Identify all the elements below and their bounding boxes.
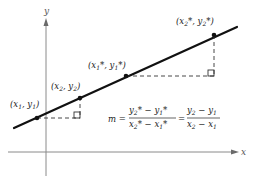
point-x2-y2 xyxy=(78,96,83,101)
formula-lhs: m = xyxy=(108,114,126,124)
formula-equals: = xyxy=(178,114,185,124)
large-triangle-guides xyxy=(126,35,214,76)
fraction2-denominator: x2 − x1 xyxy=(187,119,217,130)
point-x1-y1 xyxy=(35,116,40,121)
label-x1-y1: (x1, y1) xyxy=(10,99,39,110)
y-axis-arrow-icon xyxy=(44,18,49,26)
label-x2star-y2star: (x2*, y2*) xyxy=(176,16,214,27)
label-x1star-y1star: (x1*, y1*) xyxy=(88,60,126,71)
x-axis-arrow-icon xyxy=(231,150,239,155)
fraction1-numerator: y2* − y1* xyxy=(128,105,168,116)
point-x1star-y1star xyxy=(124,74,129,79)
fraction1-denominator: x2* − x1* xyxy=(129,119,168,130)
y-axis-label: y xyxy=(43,6,50,16)
slope-diagram: y x (x1, y1) (x2, y2) (x1*, y1*) (x2*, y… xyxy=(0,0,255,181)
point-x2star-y2star xyxy=(212,33,217,38)
right-angle-marker-2 xyxy=(208,70,214,76)
fraction2-numerator: y2 − y1 xyxy=(186,105,217,116)
label-x2-y2: (x2, y2) xyxy=(51,81,80,92)
x-axis-label: x xyxy=(241,147,246,157)
slope-formula: m = y2* − y1* x2* − x1* = y2 − y1 x2 − x… xyxy=(108,105,220,130)
axes: y x xyxy=(8,6,246,176)
right-angle-marker-1 xyxy=(74,112,80,118)
